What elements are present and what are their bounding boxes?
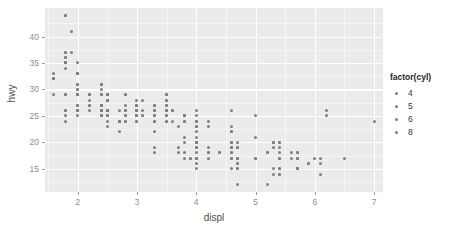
data-point [141,109,144,112]
data-point [230,109,233,112]
data-point [290,157,293,160]
data-point [64,93,67,96]
data-point [100,109,103,112]
data-point [100,83,103,86]
legend-item-6[interactable]: 6 [390,113,452,126]
x-axis-title: displ [45,212,383,223]
y-tick-mark [42,37,45,38]
y-tick-label: 15 [0,165,39,174]
data-point [272,141,275,144]
data-point [195,167,198,170]
data-point [76,83,79,86]
legend-item-label: 6 [408,115,413,124]
data-point [307,162,310,165]
data-point [106,125,109,128]
data-point [195,136,198,139]
data-point [272,146,275,149]
legend-point-icon [395,105,398,108]
y-tick-mark [42,89,45,90]
data-point [124,120,127,123]
x-tick-label: 7 [359,198,389,207]
data-point [64,51,67,54]
data-point [373,120,376,123]
data-point [319,173,322,176]
data-point [64,120,67,123]
legend-item-4[interactable]: 4 [390,87,452,100]
data-point [165,93,168,96]
data-point [177,151,180,154]
data-point [177,146,180,149]
data-point [124,109,127,112]
data-point [100,104,103,107]
data-point [343,157,346,160]
data-point [236,146,239,149]
data-point [106,109,109,112]
data-point [153,151,156,154]
data-point [296,151,299,154]
data-point [88,104,91,107]
data-point [153,109,156,112]
y-tick-label: 40 [0,33,39,42]
data-point [319,157,322,160]
legend-item-label: 4 [408,89,413,98]
legend-items: 4568 [390,87,452,139]
x-tick-label: 6 [300,198,330,207]
gridline-minor-y [45,129,383,130]
data-point [195,130,198,133]
data-point [70,30,73,33]
x-tick-mark [374,192,375,195]
data-point [64,109,67,112]
gridline-minor-y [45,156,383,157]
data-point [64,56,67,59]
data-point [236,157,239,160]
data-point [153,120,156,123]
data-point [195,125,198,128]
data-point [278,167,281,170]
data-point [207,125,210,128]
data-point [230,130,233,133]
gridline-major-y [45,169,383,170]
data-point [195,120,198,123]
data-point [165,120,168,123]
data-point [124,93,127,96]
x-tick-label: 4 [181,198,211,207]
gridline-major-y [45,142,383,143]
data-point [236,183,239,186]
data-point [76,104,79,107]
y-tick-mark [42,169,45,170]
data-point [207,157,210,160]
data-point [230,157,233,160]
data-point [207,146,210,149]
data-point [52,93,55,96]
data-point [195,146,198,149]
x-tick-mark [78,192,79,195]
legend-item-8[interactable]: 8 [390,126,452,139]
data-point [290,151,293,154]
data-point [141,99,144,102]
data-point [230,125,233,128]
data-point [88,99,91,102]
data-point [296,157,299,160]
legend-item-label: 8 [408,128,413,137]
data-point [118,109,121,112]
data-point [230,151,233,154]
legend-item-label: 5 [408,102,413,111]
data-point [278,141,281,144]
y-tick-label: 20 [0,138,39,147]
data-point [118,120,121,123]
data-point [296,167,299,170]
data-point [64,14,67,17]
data-point [207,151,210,154]
data-point [70,51,73,54]
legend-key-swatch [390,87,403,100]
data-point [106,120,109,123]
legend-item-5[interactable]: 5 [390,100,452,113]
data-point [118,130,121,133]
data-point [183,120,186,123]
x-tick-mark [137,192,138,195]
data-point [183,136,186,139]
legend-point-icon [395,92,398,95]
y-tick-mark [42,116,45,117]
legend-key-swatch [390,113,403,126]
data-point [266,183,269,186]
